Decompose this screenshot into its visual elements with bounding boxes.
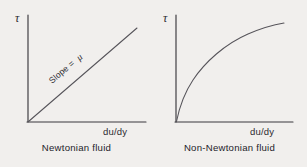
chart-panel-non-newtonian: τ du/dy Non-Newtonian fluid [153,0,306,167]
y-axis-label: τ [163,11,168,25]
x-axis-label: du/dy [103,126,127,137]
slope-annotation: Slope = μ [46,51,84,86]
slope-annotation-text: Slope = [47,58,77,85]
data-line-newtonian [29,28,138,122]
y-axis-label: τ [15,11,20,25]
figure-container: τ du/dy Slope = μ Newtonian fluid τ du/d… [0,0,307,167]
x-axis-label: du/dy [250,126,274,137]
caption-non-newtonian: Non-Newtonian fluid [153,142,306,153]
plot-newtonian: τ du/dy Slope = μ [0,0,153,140]
plot-non-newtonian: τ du/dy [153,0,306,140]
data-curve-non-newtonian [177,23,285,122]
chart-panel-newtonian: τ du/dy Slope = μ Newtonian fluid [0,0,153,167]
slope-annotation-symbol: μ [73,51,85,63]
caption-newtonian: Newtonian fluid [0,142,153,153]
